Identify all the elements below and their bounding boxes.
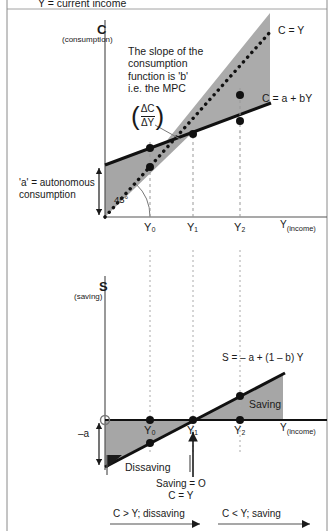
saving-x-axis-label: Y — [280, 422, 287, 433]
saving-point-y0-line — [146, 439, 154, 447]
top-note: Y = current income — [38, 0, 126, 9]
saving-tick-y1: Y₁ — [187, 424, 198, 436]
consumption-point-y2-on-cy — [236, 91, 244, 99]
footer-dissaving-label: C > Y; dissaving — [113, 508, 185, 520]
saving-point-y0-axis — [146, 416, 154, 424]
consumption-function-label: C = a + bY — [262, 92, 312, 104]
angle-arc — [136, 184, 150, 217]
footer-saving-label: C < Y; saving — [222, 508, 281, 520]
saving-x-axis-sublabel: (income) — [287, 427, 316, 436]
equilibrium-label: Saving = O C = Y — [156, 478, 206, 502]
c-equals-y-label: C = Y — [278, 24, 304, 36]
slope-annotation: The slope of the consumption function is… — [128, 45, 203, 95]
saving-point-y2-axis — [236, 416, 244, 424]
fraction-numerator: ΔC — [141, 104, 155, 115]
saving-tick-y2: Y₂ — [234, 424, 246, 436]
figure-container: Y = current income C (consumption) The s… — [0, 0, 335, 531]
saving-point-y1-zero — [189, 416, 197, 424]
consumption-x-axis-label: Y — [280, 219, 287, 230]
dissaving-region-label: Dissaving — [125, 461, 171, 473]
fraction-stack: ΔC ΔY — [140, 104, 156, 128]
consumption-x-axis-label-group: Y(income) — [280, 219, 316, 234]
consumption-tick-y2: Y₂ — [234, 221, 246, 233]
consumption-function-line — [105, 103, 271, 165]
consumption-tick-y1: Y₁ — [187, 221, 198, 233]
consumption-point-y1-intersection — [189, 130, 197, 138]
negative-a-label: –a — [78, 428, 89, 440]
consumption-x-axis-sublabel: (income) — [287, 224, 316, 233]
mpc-fraction: ( ΔC ΔY ) — [131, 104, 164, 128]
saving-x-axis-label-group: Y(income) — [280, 422, 316, 437]
consumption-y-axis-sublabel: (consumption) — [62, 35, 113, 44]
saving-function-label: S = – a + (1 – b) Y — [222, 352, 304, 364]
fraction-close-paren: ) — [156, 106, 165, 126]
consumption-point-y2-on-cabY — [236, 117, 244, 125]
saving-y-axis-sublabel: (saving) — [74, 292, 102, 301]
fraction-open-paren: ( — [131, 106, 140, 126]
saving-region-label: Saving — [249, 398, 281, 410]
consumption-point-y0-on-cy — [146, 163, 154, 171]
fraction-denominator: ΔY — [141, 118, 154, 129]
saving-tick-y0: Y₀ — [144, 424, 156, 436]
consumption-point-y0-on-cabY — [146, 144, 154, 152]
angle-label: 45° — [114, 194, 128, 205]
autonomous-consumption-label: 'a' = autonomous consumption — [19, 177, 95, 201]
saving-point-y2-line — [236, 392, 244, 400]
consumption-tick-y0: Y₀ — [144, 221, 156, 233]
